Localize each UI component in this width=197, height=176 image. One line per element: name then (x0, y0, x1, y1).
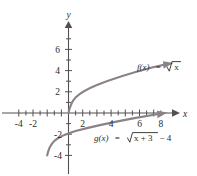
x-tick-label: -2 (29, 119, 37, 129)
x-axis-arrow-icon (172, 109, 180, 117)
x-tick-label: 6 (137, 119, 142, 129)
curve-f-label-eq: = (156, 62, 161, 72)
graph-figure: x y -4 -2 2 4 6 8 6 4 2 -2 -4 f(x) = (0, 0, 197, 176)
y-axis-arrow-icon (65, 21, 73, 28)
curve-f-radicand: x (174, 62, 179, 72)
curve-g-label-fn-text: g(x) = (94, 133, 120, 143)
x-tick-label: 8 (158, 119, 163, 129)
y-tick-labels: 6 4 2 -2 -4 (54, 45, 62, 161)
curve-g-arrow-icon (157, 111, 168, 118)
curve-f-label-fn: f(x) (137, 62, 150, 72)
y-tick-label: -4 (54, 151, 62, 161)
axis-group (2, 21, 180, 174)
y-axis-label: y (65, 10, 71, 20)
curve-g-label-fn: g(x) (94, 133, 109, 143)
x-tick-label: 2 (80, 119, 85, 129)
curve-g-label-suffix: − 4 (160, 133, 172, 143)
x-tick-label: 4 (109, 119, 114, 129)
curve-f-label: f(x) = x (137, 62, 181, 72)
y-tick-label: 6 (55, 45, 60, 55)
y-tick-label: 2 (55, 87, 60, 97)
x-tick-marks (19, 110, 161, 117)
curve-g-radicand: x + 3 (134, 133, 153, 143)
x-tick-label: -4 (15, 119, 23, 129)
curve-g-label-eq: = (115, 133, 120, 143)
y-tick-label: -2 (54, 130, 62, 140)
curve-g-label: g(x) = x + 3 − 4 (94, 133, 172, 143)
coordinate-plane: x y -4 -2 2 4 6 8 6 4 2 -2 -4 f(x) = (0, 0, 197, 176)
y-tick-label: 4 (55, 66, 60, 76)
x-axis-label: x (182, 109, 188, 119)
curve-f-label-fn-text: f(x) = (137, 62, 161, 72)
